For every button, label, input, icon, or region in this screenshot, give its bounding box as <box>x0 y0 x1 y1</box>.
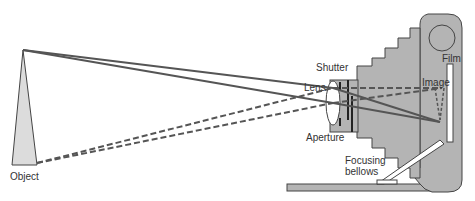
focusing-bellows-label-line2: bellows <box>345 166 378 177</box>
film-spool <box>429 25 455 51</box>
film <box>447 64 453 142</box>
ray-dashed-2 <box>37 103 333 163</box>
camera-optics-diagram <box>0 0 475 201</box>
film-label: Film <box>442 53 461 64</box>
image-label: Image <box>422 77 450 88</box>
aperture-label: Aperture <box>306 132 344 143</box>
ray-dashed-1 <box>37 88 333 163</box>
focusing-bellows-label-line1: Focusing <box>345 155 386 166</box>
object-label: Object <box>10 171 39 182</box>
shutter-label: Shutter <box>316 62 348 73</box>
object-triangle <box>12 50 37 165</box>
strut-base <box>377 180 397 184</box>
ray-solid-2 <box>23 50 333 103</box>
camera-base-board <box>287 184 442 191</box>
ray-solid-1 <box>23 50 333 88</box>
lens-label: Lens <box>304 82 326 93</box>
